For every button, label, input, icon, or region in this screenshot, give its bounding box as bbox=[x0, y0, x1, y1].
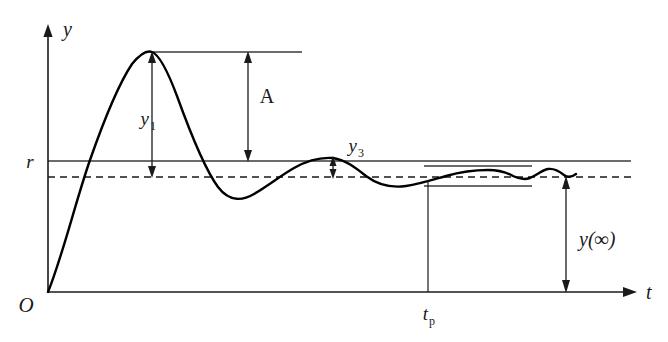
y1-arrow-down-icon bbox=[148, 166, 156, 178]
reference-label-r: r bbox=[26, 151, 34, 172]
tp-label-subscript: p bbox=[429, 314, 435, 328]
A-label: A bbox=[260, 85, 275, 107]
y1-label: y bbox=[139, 108, 150, 129]
step-response-chart: y 1 A y 3 t p y(∞) y t r O bbox=[0, 0, 668, 342]
figure-container: y 1 A y 3 t p y(∞) y t r O bbox=[0, 0, 668, 342]
y-infinity-arrow-down-icon bbox=[562, 280, 570, 293]
origin-label: O bbox=[18, 293, 33, 317]
y3-label: y bbox=[347, 135, 358, 156]
y3-label-subscript: 3 bbox=[358, 146, 364, 160]
A-arrow-down-icon bbox=[244, 150, 252, 162]
y1-label-subscript: 1 bbox=[150, 119, 156, 133]
y-infinity-label: y(∞) bbox=[577, 228, 616, 251]
y-axis-label: y bbox=[61, 18, 72, 41]
y-axis-arrow-icon bbox=[43, 24, 52, 37]
A-arrow-up-icon bbox=[244, 51, 252, 63]
t-axis-label: t bbox=[646, 281, 652, 303]
tp-label: t bbox=[423, 303, 429, 324]
t-axis-arrow-icon bbox=[623, 287, 637, 297]
step-response-curve bbox=[48, 51, 576, 292]
